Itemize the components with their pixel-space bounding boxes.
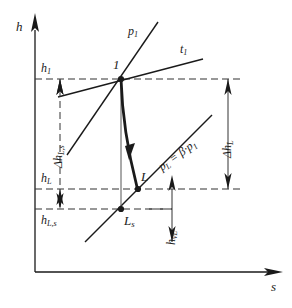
point-L-label: L [141, 170, 148, 183]
delta-hL-label: ΔhL [221, 140, 235, 158]
point-1-marker [118, 76, 124, 82]
h-axis-arrowhead [31, 13, 39, 32]
hs-diagram-figure: h s p1 t1 pL = β·p1 1 L Ls h1 hL hL [0, 0, 292, 308]
point-1-label: 1 [113, 58, 120, 71]
hvL-label: hvL [165, 231, 179, 245]
point-L-marker [135, 186, 141, 192]
h-axis-label: h [16, 20, 23, 33]
point-Ls-marker [118, 206, 124, 212]
real-expansion-curve [121, 79, 137, 187]
diagram-canvas [0, 0, 292, 308]
isobar-pL-line [85, 115, 212, 242]
s-axis-label: s [271, 280, 276, 293]
delta-hLs-label: ΔhL,s [52, 145, 66, 168]
isotherm-t1-line [58, 59, 203, 97]
isobar-p1-line [67, 22, 158, 155]
